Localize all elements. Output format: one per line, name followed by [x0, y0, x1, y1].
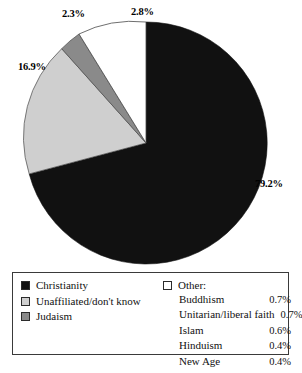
legend-label-judaism: Judaism: [36, 311, 72, 322]
pie-chart-figure: 79.2% 16.9% 2.3% 2.8%: [0, 0, 302, 270]
legend-label-unaffiliated: Unaffiliated/don't know: [36, 296, 141, 307]
legend-subitem-hinduism: Hinduism 0.4%: [163, 340, 291, 356]
legend-subitem-islam: Islam 0.6%: [163, 325, 291, 341]
legend-subitem-unitarian: Unitarian/liberal faith 0.7%: [163, 309, 291, 325]
pie-label-other: 2.8%: [131, 7, 154, 18]
pie-label-judaism: 2.3%: [62, 9, 85, 20]
legend-item-unaffiliated: Unaffiliated/don't know: [21, 294, 161, 310]
legend-item-christianity: Christianity: [21, 278, 161, 294]
legend-subitem-value: 0.7%: [263, 295, 291, 306]
pie-label-unaffiliated: 16.9%: [18, 62, 46, 73]
white-swatch-icon: [163, 281, 172, 290]
light-gray-swatch-icon: [21, 297, 30, 306]
pie-chart-graphic: [0, 0, 302, 270]
legend-subitem-name: Hinduism: [179, 340, 263, 351]
legend-label-other: Other:: [178, 280, 206, 291]
legend-item-other: Other:: [163, 278, 291, 294]
legend-subitem-value: 0.7%: [275, 310, 302, 321]
legend-subitem-name: Unitarian/liberal faith: [179, 309, 275, 320]
legend-subitem-new-age: New Age 0.4%: [163, 356, 291, 372]
legend-subitem-name: New Age: [179, 356, 263, 367]
legend-subitem-value: 0.4%: [263, 341, 291, 352]
black-swatch-icon: [21, 281, 30, 290]
legend-label-christianity: Christianity: [36, 280, 88, 291]
legend-subitem-name: Islam: [179, 325, 263, 336]
legend-other-column: Other: Buddhism 0.7% Unitarian/liberal f…: [163, 278, 291, 371]
legend-subitem-buddhism: Buddhism 0.7%: [163, 294, 291, 310]
legend-item-judaism: Judaism: [21, 309, 161, 325]
legend-subitem-value: 0.4%: [263, 357, 291, 368]
legend-subitem-value: 0.6%: [263, 326, 291, 337]
legend-main-column: Christianity Unaffiliated/don't know Jud…: [21, 278, 161, 325]
chart-legend: Christianity Unaffiliated/don't know Jud…: [12, 272, 289, 355]
legend-subitem-name: Buddhism: [179, 294, 263, 305]
pie-label-christianity: 79.2%: [255, 179, 283, 190]
mid-gray-swatch-icon: [21, 312, 30, 321]
